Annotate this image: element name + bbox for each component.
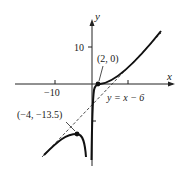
x-tick-label-neg10: −10 (44, 87, 60, 98)
leader-2-0 (99, 66, 103, 81)
asymptote-label: y = x − 6 (106, 92, 144, 103)
y-axis-arrow-icon (90, 19, 95, 26)
leader-neg4 (66, 122, 75, 131)
local-min-point (96, 82, 101, 87)
y-tick-label-10: 10 (74, 42, 84, 53)
annotation-neg4: (−4, −13.5) (17, 109, 62, 121)
x-axis-arrow-icon (168, 82, 175, 87)
chart: y x 10 −10 (2, 0) (−4, −13.5) y = x − 6 (0, 0, 182, 171)
x-axis-label: x (166, 70, 172, 82)
local-max-point (75, 132, 80, 137)
plot-area: y x 10 −10 (2, 0) (−4, −13.5) y = x − 6 (0, 0, 182, 171)
curve-left-branch (44, 134, 86, 157)
annotation-2-0: (2, 0) (97, 53, 119, 65)
y-axis-label: y (94, 10, 100, 22)
